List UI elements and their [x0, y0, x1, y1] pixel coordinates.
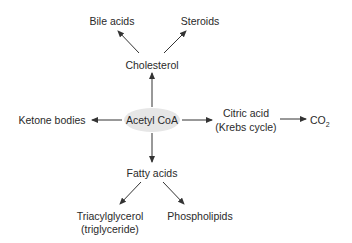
- co2-main: CO: [310, 114, 326, 126]
- arrow-to-phospholipids: [163, 182, 184, 204]
- node-cholesterol: Cholesterol: [112, 59, 192, 71]
- node-citric-acid-line2: (Krebs cycle): [210, 121, 282, 133]
- node-ketone-bodies: Ketone bodies: [14, 114, 90, 126]
- node-citric-acid-line1: Citric acid: [210, 107, 282, 119]
- node-bile-acids: Bile acids: [82, 15, 142, 27]
- node-acetyl-coa: Acetyl CoA: [124, 114, 180, 126]
- arrow-to-steroids: [164, 31, 186, 53]
- node-fatty-acids: Fatty acids: [112, 167, 192, 179]
- arrow-to-triacylglycerol: [120, 182, 141, 204]
- node-triacylglycerol-line2: (triglyceride): [70, 223, 150, 235]
- node-steroids: Steroids: [170, 15, 230, 27]
- node-phospholipids: Phospholipids: [160, 210, 240, 222]
- node-co2: CO2: [310, 114, 330, 126]
- co2-subscript: 2: [326, 121, 330, 128]
- arrow-to-bile-acids: [118, 31, 139, 53]
- node-triacylglycerol-line1: Triacylglycerol: [70, 210, 150, 222]
